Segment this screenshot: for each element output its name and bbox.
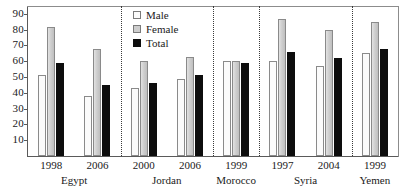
bar-male xyxy=(38,75,46,156)
x-axis-country-label: Morocco xyxy=(213,174,259,186)
x-tick-label-year: 1998 xyxy=(28,159,74,171)
y-tick-mark xyxy=(24,124,28,125)
legend-label-female: Female xyxy=(146,23,178,35)
bar-female xyxy=(186,57,194,156)
y-tick-label: 90 xyxy=(0,8,24,19)
x-tick-label-year: 2004 xyxy=(306,159,352,171)
y-tick-mark xyxy=(24,77,28,78)
y-tick-label: 50 xyxy=(0,71,24,82)
bar-female xyxy=(140,61,148,156)
country-group-divider xyxy=(259,6,260,156)
bar-total xyxy=(380,49,388,156)
y-tick-label: 60 xyxy=(0,55,24,66)
bar-female xyxy=(232,61,240,156)
bar-male xyxy=(131,88,139,156)
country-group-divider xyxy=(121,6,122,156)
x-tick-label-year: 1997 xyxy=(259,159,305,171)
y-tick-label: 70 xyxy=(0,39,24,50)
legend-item-female: Female xyxy=(133,22,205,35)
legend-item-total: Total xyxy=(133,36,205,49)
bar-female xyxy=(47,27,55,156)
chart-legend: Male Female Total xyxy=(133,8,205,50)
total-swatch-icon xyxy=(133,39,141,47)
male-swatch-icon xyxy=(133,11,141,19)
y-tick-mark xyxy=(24,109,28,110)
bar-total xyxy=(195,75,203,156)
y-tick-mark xyxy=(24,14,28,15)
x-tick-label-year: 2006 xyxy=(74,159,120,171)
y-tick-label: 80 xyxy=(0,24,24,35)
legend-label-total: Total xyxy=(146,37,168,49)
bar-total xyxy=(241,63,249,156)
bar-female xyxy=(325,30,333,156)
x-axis-country-label: Syria xyxy=(259,174,352,186)
y-tick-mark xyxy=(24,140,28,141)
x-tick-label-year: 1999 xyxy=(213,159,259,171)
bar-female xyxy=(371,22,379,156)
y-tick-mark xyxy=(24,93,28,94)
bar-male xyxy=(316,66,324,156)
bar-total xyxy=(56,63,64,156)
x-axis-country-label: Jordan xyxy=(121,174,214,186)
bar-female xyxy=(278,19,286,156)
bar-total xyxy=(102,85,110,156)
y-tick-mark xyxy=(24,61,28,62)
bar-total xyxy=(287,52,295,156)
bar-male xyxy=(177,79,185,156)
legend-item-male: Male xyxy=(133,8,205,21)
bar-male xyxy=(223,61,231,156)
country-group-divider xyxy=(213,6,214,156)
y-tick-mark xyxy=(24,45,28,46)
bar-male xyxy=(84,96,92,156)
x-axis: 19982006Egypt20002006Jordan1999Morocco19… xyxy=(0,157,402,191)
y-tick-label: 40 xyxy=(0,87,24,98)
female-swatch-icon xyxy=(133,25,141,33)
country-group-divider xyxy=(352,6,353,156)
bar-male xyxy=(362,53,370,156)
x-tick-label-year: 2000 xyxy=(121,159,167,171)
x-tick-label-year: 1999 xyxy=(352,159,398,171)
x-tick-label-year: 2006 xyxy=(167,159,213,171)
y-tick-label: 30 xyxy=(0,103,24,114)
x-axis-country-label: Yemen xyxy=(352,174,398,186)
bar-female xyxy=(93,49,101,156)
bar-total xyxy=(149,83,157,156)
bar-total xyxy=(334,58,342,156)
x-axis-country-label: Egypt xyxy=(28,174,121,186)
y-tick-label: 20 xyxy=(0,118,24,129)
plot-area xyxy=(28,6,398,156)
bar-male xyxy=(269,61,277,156)
bar-chart: 102030405060708090 19982006Egypt20002006… xyxy=(0,0,402,191)
plot-right-border xyxy=(398,6,399,157)
legend-label-male: Male xyxy=(146,9,169,21)
y-tick-label: 10 xyxy=(0,134,24,145)
y-tick-mark xyxy=(24,30,28,31)
